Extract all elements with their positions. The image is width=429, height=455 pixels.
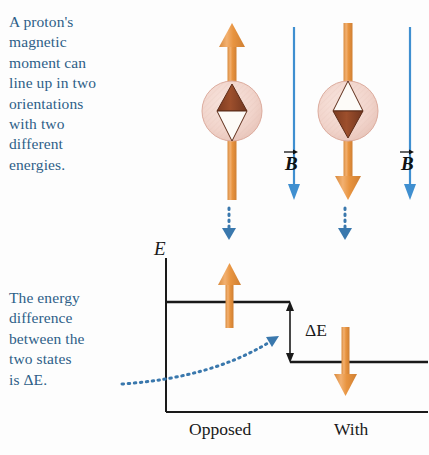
delta-energy-label: ΔE [305,320,327,341]
field-symbol: B [284,153,298,174]
magnetic-field-label-left: B [283,148,299,177]
field-symbol: B [400,153,414,174]
top-annotation-text: A proton's magnetic moment can line up i… [9,12,159,175]
category-label-opposed: Opposed [189,419,251,440]
energy-diagram-axes [166,258,428,412]
energy-axis-label: E [154,238,166,260]
category-label-with: With [334,419,368,440]
opposed-proton-group [202,23,262,200]
vector-arrow-icon: B [283,148,299,172]
magnetic-field-label-right: B [399,148,415,177]
bottom-annotation-text: The energy difference between the two st… [9,288,159,390]
delta-energy-arrow [286,301,294,363]
level-moment-arrow-opposed [218,263,241,328]
connector-arrow-left [222,208,236,240]
with-proton-group [318,23,378,200]
connector-arrow-right [338,208,352,240]
vector-arrow-icon: B [399,148,415,172]
